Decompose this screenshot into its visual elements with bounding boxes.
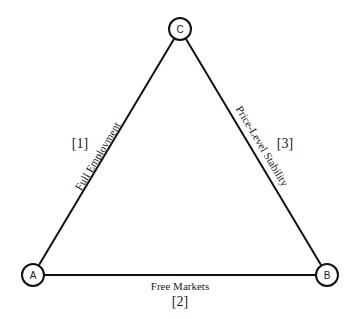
edge-number-3: [3] [277,136,293,151]
node-b-label: B [324,270,331,281]
edge-label-full-employment: Full Employment [73,120,123,192]
node-a-label: A [30,270,37,281]
edge-number-1: [1] [72,136,88,151]
node-a: A [22,264,44,286]
node-c-label: C [176,24,183,35]
edge-number-2: [2] [172,294,188,309]
edge-c-b [186,39,321,265]
triangle-diagram: C A B Full Employment [1] Price-Level St… [0,0,359,319]
node-c: C [169,18,191,40]
node-b: B [316,264,338,286]
edge-label-free-markets: Free Markets [151,280,209,292]
